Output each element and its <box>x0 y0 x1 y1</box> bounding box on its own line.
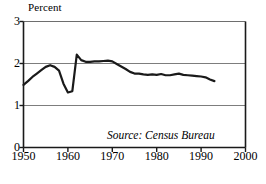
y-tick-label-1: 1 <box>2 99 20 111</box>
y-tick-label-2: 2 <box>2 57 20 69</box>
x-tick-label-1950: 1950 <box>4 150 44 163</box>
x-tick-label-1990: 1990 <box>181 150 221 163</box>
source-annotation: Source: Census Bureau <box>107 129 215 141</box>
x-tick-label-1970: 1970 <box>92 150 132 163</box>
x-tick-label-1980: 1980 <box>137 150 177 163</box>
y-tick-label-3: 3 <box>2 15 20 27</box>
x-tick-label-2000: 2000 <box>226 150 266 163</box>
x-tick-label-1960: 1960 <box>48 150 88 163</box>
chart-figure: Percent Source: Census Bureau 0123195019… <box>0 0 265 184</box>
data-line-percent <box>24 55 215 93</box>
